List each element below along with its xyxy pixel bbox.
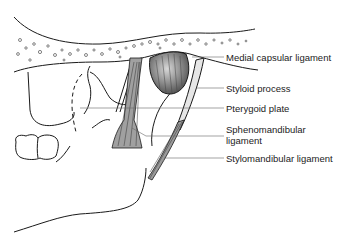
maxilla-outline	[28, 66, 134, 132]
molar-teeth	[16, 135, 70, 162]
label-stylomandibular-ligament: Stylomandibular ligament	[226, 153, 333, 164]
label-sphenomandibular-ligament: Sphenomandibular	[226, 124, 306, 135]
tmj-ligament-diagram	[0, 0, 347, 244]
medial-capsular-ligament	[150, 52, 189, 94]
label-sphenomandibular-ligament-line2: ligament	[226, 135, 262, 146]
stylomandibular-ligament	[148, 120, 184, 180]
label-styloid-process: Styloid process	[226, 83, 290, 94]
label-medial-capsular-ligament: Medial capsular ligament	[226, 52, 331, 63]
label-pterygoid-plate: Pterygoid plate	[226, 103, 289, 114]
